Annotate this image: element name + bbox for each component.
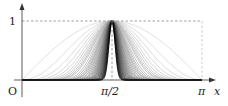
x-axis-arrow-icon bbox=[209, 78, 216, 83]
origin-label: O bbox=[8, 85, 17, 98]
x-tick-pi: π bbox=[197, 85, 206, 98]
plot: 1 O π/2 π x bbox=[0, 0, 228, 106]
y-tick-one: 1 bbox=[9, 15, 16, 28]
x-axis-label: x bbox=[214, 85, 221, 98]
x-tick-half-pi: π/2 bbox=[100, 85, 119, 98]
y-axis-arrow-icon bbox=[20, 3, 25, 10]
